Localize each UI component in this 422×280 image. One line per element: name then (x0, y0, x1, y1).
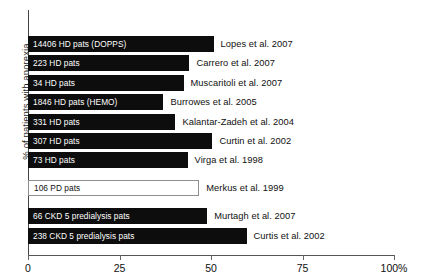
bar-row: 73 HD patsVirga et al. 1998 (28, 152, 394, 168)
x-tick-mark (303, 255, 304, 260)
x-tick-label: 25 (114, 262, 126, 274)
x-tick-mark (211, 255, 212, 260)
bar-value-label: 106 PD pats (29, 183, 80, 193)
x-tick-label: 50 (205, 262, 217, 274)
plot-area: 14406 HD pats (DOPPS)Lopes et al. 200722… (28, 10, 394, 255)
x-tick-label: 100% (381, 262, 408, 274)
bar-row: 14406 HD pats (DOPPS)Lopes et al. 2007 (28, 36, 394, 52)
anorexia-prevalence-bar-chart: % of patients with anorexia 14406 HD pat… (0, 0, 422, 280)
bar-author-label: Curtin et al. 2002 (219, 136, 291, 146)
bar-row: 34 HD patsMuscaritoli et al. 2007 (28, 75, 394, 91)
x-tick-label: 0 (25, 262, 31, 274)
bar-value-label: 223 HD pats (28, 58, 80, 68)
bar-hd-6: 73 HD pats (28, 152, 188, 168)
bar-pd-7: 106 PD pats (28, 180, 199, 196)
bar-author-label: Carrero et al. 2007 (196, 58, 274, 68)
bar-author-label: Lopes et al. 2007 (221, 39, 293, 49)
bar-value-label: 1846 HD pats (HEMO) (28, 97, 117, 107)
bar-hd-2: 34 HD pats (28, 75, 184, 91)
bar-row: 106 PD patsMerkus et al. 1999 (28, 180, 394, 196)
bar-value-label: 307 HD pats (28, 136, 80, 146)
bar-hd-0: 14406 HD pats (DOPPS) (28, 36, 214, 52)
bar-value-label: 66 CKD 5 predialysis pats (28, 211, 130, 221)
bar-value-label: 34 HD pats (28, 78, 75, 88)
bar-author-label: Murtagh et al. 2007 (214, 211, 295, 221)
bar-author-label: Curtis et al. 2002 (254, 231, 325, 241)
bar-author-label: Muscaritoli et al. 2007 (191, 78, 283, 88)
bar-row: 307 HD patsCurtin et al. 2002 (28, 133, 394, 149)
bar-row: 66 CKD 5 predialysis patsMurtagh et al. … (28, 208, 394, 224)
bar-row: 1846 HD pats (HEMO)Burrowes et al. 2005 (28, 94, 394, 110)
bar-ckd5-8: 66 CKD 5 predialysis pats (28, 208, 207, 224)
bar-row: 238 CKD 5 predialysis patsCurtis et al. … (28, 228, 394, 244)
bar-hd-1: 223 HD pats (28, 55, 189, 71)
bar-value-label: 238 CKD 5 predialysis pats (28, 231, 134, 241)
bar-row: 331 HD patsKalantar-Zadeh et al. 2004 (28, 114, 394, 130)
bar-author-label: Burrowes et al. 2005 (170, 97, 256, 107)
bar-value-label: 331 HD pats (28, 117, 80, 127)
x-tick-mark (120, 255, 121, 260)
bar-row: 223 HD patsCarrero et al. 2007 (28, 55, 394, 71)
bar-author-label: Merkus et al. 1999 (206, 183, 283, 193)
bar-author-label: Virga et al. 1998 (195, 155, 263, 165)
bar-ckd5-9: 238 CKD 5 predialysis pats (28, 228, 247, 244)
x-tick-mark (28, 255, 29, 260)
bar-author-label: Kalantar-Zadeh et al. 2004 (182, 117, 293, 127)
x-tick-mark (394, 255, 395, 260)
bar-hd-4: 331 HD pats (28, 114, 175, 130)
x-tick-label: 75 (297, 262, 309, 274)
bar-value-label: 14406 HD pats (DOPPS) (28, 39, 126, 49)
bar-value-label: 73 HD pats (28, 155, 75, 165)
bar-hd-3: 1846 HD pats (HEMO) (28, 94, 163, 110)
bar-hd-5: 307 HD pats (28, 133, 212, 149)
